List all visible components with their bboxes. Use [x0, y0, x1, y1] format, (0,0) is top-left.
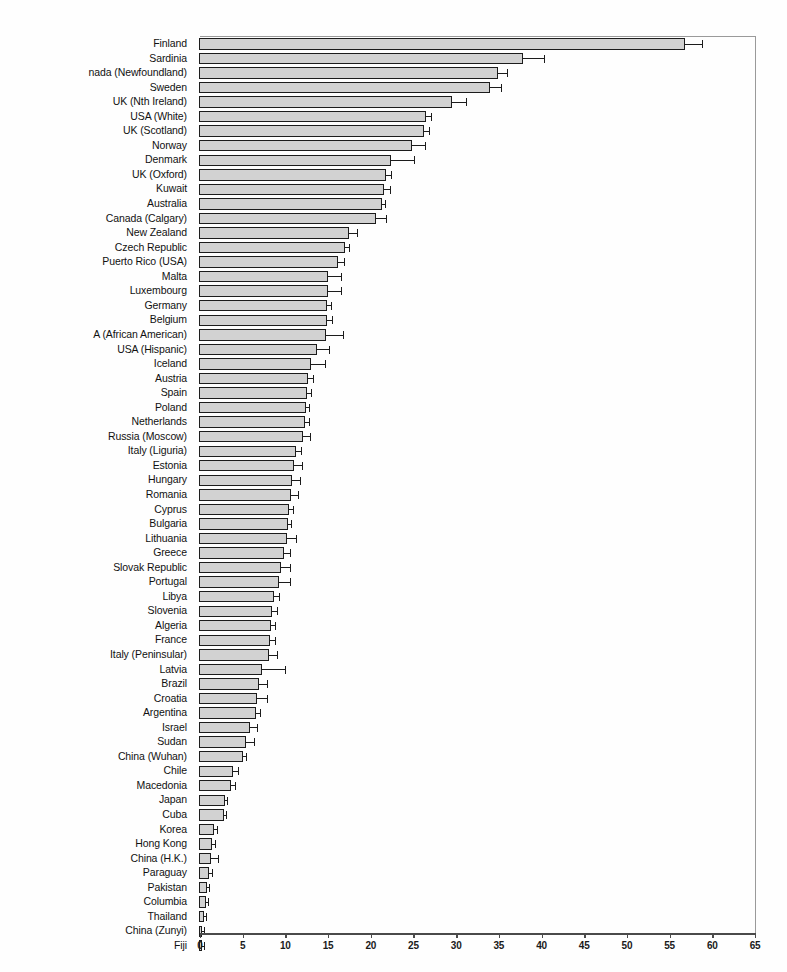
bar-row — [200, 735, 755, 750]
category-label-row: Estonia — [0, 458, 192, 473]
bar — [199, 387, 307, 398]
category-label: A (African American) — [93, 329, 187, 340]
bar — [199, 664, 262, 675]
category-label-row: Romania — [0, 487, 192, 502]
category-label: Norway — [152, 140, 187, 151]
bar — [199, 635, 270, 646]
category-axis-labels: FinlandSardinianada (Newfoundland)Sweden… — [0, 36, 192, 952]
category-label-row: Australia — [0, 196, 192, 211]
category-label: Thailand — [148, 911, 187, 922]
bar-row — [200, 415, 755, 430]
category-label-row: Greece — [0, 545, 192, 560]
bar-row — [200, 837, 755, 852]
error-bar-line — [269, 655, 277, 656]
bar — [199, 256, 338, 267]
bar — [199, 82, 490, 93]
bar — [199, 576, 279, 587]
bar-row — [200, 270, 755, 285]
category-label: Latvia — [160, 664, 187, 675]
error-bar-cap — [212, 869, 213, 877]
error-bar-cap — [344, 258, 345, 266]
error-bar-cap — [309, 418, 310, 426]
category-label: Iceland — [154, 358, 187, 369]
bar-row — [200, 182, 755, 197]
category-label-row: Iceland — [0, 356, 192, 371]
x-axis-tick — [712, 933, 713, 938]
bar — [199, 300, 327, 311]
category-label-row: Korea — [0, 822, 192, 837]
category-label: Hong Kong — [135, 838, 187, 849]
bar-row — [200, 139, 755, 154]
category-label: New Zealand — [126, 227, 187, 238]
bar-row — [200, 633, 755, 648]
error-bar-cap — [290, 578, 291, 586]
error-bar-cap — [391, 171, 392, 179]
category-label: UK (Scotland) — [123, 125, 187, 136]
category-label: Lithuania — [145, 533, 187, 544]
error-bar-cap — [357, 229, 358, 237]
bar — [199, 242, 345, 253]
bar — [199, 489, 291, 500]
category-label-row: USA (White) — [0, 109, 192, 124]
category-label: Luxembourg — [130, 285, 187, 296]
category-label: Netherlands — [131, 416, 187, 427]
error-bar-cap — [343, 331, 344, 339]
category-label: UK (Nth Ireland) — [113, 96, 187, 107]
bar-row — [200, 619, 755, 634]
error-bar-cap — [275, 622, 276, 630]
category-label-row: Croatia — [0, 691, 192, 706]
category-label: Puerto Rico (USA) — [102, 256, 187, 267]
error-bar-cap — [254, 738, 255, 746]
error-bar-cap — [257, 724, 258, 732]
error-bar-line — [291, 495, 298, 496]
bar — [199, 896, 206, 907]
bar-row — [200, 52, 755, 67]
error-bar-line — [292, 480, 300, 481]
error-bar-cap — [329, 346, 330, 354]
category-label-row: China (H.K.) — [0, 851, 192, 866]
error-bar-cap — [275, 637, 276, 645]
category-label-row: Portugal — [0, 574, 192, 589]
category-label-row: China (Zunyi) — [0, 923, 192, 938]
error-bar-line — [259, 684, 267, 685]
bar — [199, 591, 274, 602]
category-label-row: USA (Hispanic) — [0, 341, 192, 356]
bar — [199, 649, 269, 660]
error-bar-cap — [298, 491, 299, 499]
category-label: Bulgaria — [149, 518, 187, 529]
x-axis-tick-label: 10 — [280, 940, 291, 951]
category-label-row: Columbia — [0, 894, 192, 909]
bar — [199, 620, 271, 631]
bar-row — [200, 764, 755, 779]
category-label: Sardinia — [149, 53, 187, 64]
x-axis-line — [200, 933, 756, 935]
error-bar-line — [349, 233, 357, 234]
bar — [199, 53, 523, 64]
x-axis-tick-label: 65 — [750, 940, 761, 951]
bar-row — [200, 575, 755, 590]
bar-row — [200, 241, 755, 256]
category-label: Germany — [145, 300, 187, 311]
category-label-row: UK (Scotland) — [0, 123, 192, 138]
error-bar-line — [452, 102, 466, 103]
bar — [199, 562, 281, 573]
category-label: Argentina — [143, 707, 187, 718]
bar-row — [200, 793, 755, 808]
category-label-row: Germany — [0, 298, 192, 313]
bar — [199, 853, 211, 864]
bar-row — [200, 779, 755, 794]
x-axis-tick-label: 35 — [493, 940, 504, 951]
bar-row — [200, 401, 755, 416]
error-bar-line — [279, 582, 290, 583]
bar-row — [200, 342, 755, 357]
category-label: Slovak Republic — [113, 562, 187, 573]
plot-area — [200, 36, 756, 934]
bar-row — [200, 284, 755, 299]
category-label-row: nada (Newfoundland) — [0, 65, 192, 80]
bar-row — [200, 313, 755, 328]
x-axis-tick-label: 15 — [323, 940, 334, 951]
bar — [199, 475, 292, 486]
error-bar-line — [211, 858, 218, 859]
x-axis-tick — [670, 933, 671, 938]
category-label-row: New Zealand — [0, 225, 192, 240]
